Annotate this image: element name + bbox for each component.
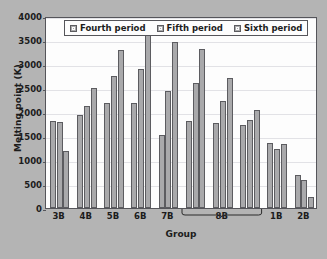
bar: [213, 123, 219, 208]
y-tick-label: 2000: [8, 108, 42, 118]
chart-legend: Fourth period Fifth period Sixth period: [64, 20, 308, 36]
legend-label: Fifth period: [167, 23, 223, 33]
legend-swatch-icon: [70, 25, 77, 32]
y-tick-label: 1500: [8, 132, 42, 142]
bar: [77, 115, 83, 208]
bar: [240, 125, 246, 208]
bar: [301, 180, 307, 209]
legend-swatch-icon: [234, 25, 241, 32]
bar: [131, 103, 137, 208]
bar: [57, 122, 63, 208]
y-tick-label: 0: [8, 204, 42, 214]
eight-b-bracket: [45, 208, 317, 218]
bar: [165, 91, 171, 208]
bar: [186, 121, 192, 208]
y-axis-tick-labels: 05001000150020002500300035004000: [8, 0, 42, 259]
bar: [50, 121, 56, 208]
y-tick-label: 1000: [8, 156, 42, 166]
bar: [295, 175, 301, 208]
y-tick-label: 2500: [8, 84, 42, 94]
bar: [220, 101, 226, 208]
bar: [254, 110, 260, 208]
bar: [308, 197, 314, 208]
bar: [274, 149, 280, 208]
plot-area: [45, 17, 317, 209]
legend-item-fifth-period: Fifth period: [157, 23, 223, 33]
y-tick-label: 4000: [8, 12, 42, 22]
bar: [111, 76, 117, 208]
bar: [84, 106, 90, 208]
legend-item-sixth-period: Sixth period: [234, 23, 302, 33]
bar: [118, 50, 124, 208]
bar: [104, 103, 110, 208]
bar: [138, 69, 144, 208]
x-axis-title: Group: [45, 229, 317, 239]
bar: [63, 151, 69, 208]
bar: [159, 135, 165, 208]
bar: [172, 42, 178, 208]
bar: [91, 88, 97, 208]
legend-item-fourth-period: Fourth period: [70, 23, 146, 33]
chart-figure: Melting point (K) 0500100015002000250030…: [0, 0, 327, 259]
bar-series-container: [46, 18, 316, 208]
bar: [145, 31, 151, 208]
bar: [199, 49, 205, 208]
legend-label: Sixth period: [244, 23, 302, 33]
bar: [281, 144, 287, 208]
bar: [193, 83, 199, 208]
legend-swatch-icon: [157, 25, 164, 32]
legend-label: Fourth period: [80, 23, 146, 33]
bar: [247, 120, 253, 208]
y-tick-label: 3500: [8, 36, 42, 46]
bar: [227, 78, 233, 209]
bar: [267, 143, 273, 208]
y-tick-label: 500: [8, 180, 42, 190]
y-tick-label: 3000: [8, 60, 42, 70]
